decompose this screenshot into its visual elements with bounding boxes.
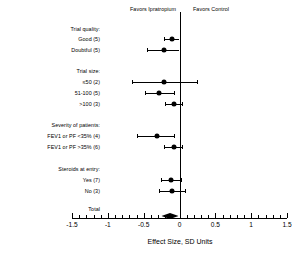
confidence-interval-cap [197,80,198,84]
x-axis-minor-tick [151,215,152,218]
x-axis-major-tick [72,213,73,218]
confidence-interval-cap [180,37,181,41]
x-axis-major-tick [180,213,181,218]
effect-estimate-marker [161,80,166,85]
x-axis-minor-tick [101,215,102,218]
x-axis-tick-label: 0 [178,221,182,228]
x-axis-major-tick [144,213,145,218]
x-axis-minor-tick [201,215,202,218]
confidence-interval-cap [181,178,182,182]
summary-diamond [162,205,179,211]
effect-estimate-marker [171,145,176,150]
confidence-interval-cap [182,145,183,149]
effect-estimate-marker [170,189,175,194]
effect-estimate-marker [168,178,173,183]
confidence-interval-cap [185,189,186,193]
effect-estimate-marker [157,91,162,96]
x-axis-minor-tick [122,215,123,218]
x-axis-minor-tick [237,215,238,218]
x-axis-minor-tick [79,215,80,218]
x-axis-minor-tick [194,215,195,218]
x-axis-minor-tick [244,215,245,218]
x-axis-tick-label: 1.5 [282,221,291,228]
x-axis-minor-tick [86,215,87,218]
x-axis-minor-tick [129,215,130,218]
x-axis-minor-tick [137,215,138,218]
confidence-interval-cap [132,80,133,84]
x-axis-major-tick [215,213,216,218]
confidence-interval-cap [145,91,146,95]
x-axis-major-tick [251,213,252,218]
effect-estimate-marker [161,48,166,53]
effect-estimate-marker [170,37,175,42]
confidence-interval-cap [174,134,175,138]
x-axis-minor-tick [273,215,274,218]
effect-estimate-marker [154,134,159,139]
x-axis-tick-label: -1.5 [66,221,77,228]
x-axis-tick-label: -0.5 [138,221,149,228]
effect-estimate-marker [171,102,176,107]
x-axis-minor-tick [280,215,281,218]
forest-plot: Favors Ipratropium Favors Control Trial … [0,0,299,254]
confidence-interval-cap [137,134,138,138]
x-axis-title: Effect Size, SD Units [148,238,213,245]
x-axis-minor-tick [94,215,95,218]
x-axis-minor-tick [158,215,159,218]
x-axis-minor-tick [187,215,188,218]
x-axis-tick-label: 0.5 [211,221,220,228]
x-axis-minor-tick [266,215,267,218]
confidence-interval-cap [164,37,165,41]
data-markers-layer [0,0,299,254]
confidence-interval-cap [147,48,148,52]
confidence-interval-cap [165,102,166,106]
x-axis-line [72,218,287,219]
confidence-interval-cap [182,102,183,106]
x-axis-minor-tick [230,215,231,218]
confidence-interval-cap [180,48,181,52]
x-axis-major-tick [287,213,288,218]
x-axis-tick-label: 1 [249,221,253,228]
x-axis-minor-tick [258,215,259,218]
x-axis-minor-tick [165,215,166,218]
confidence-interval-cap [161,178,162,182]
confidence-interval-cap [174,91,175,95]
x-axis-tick-label: -1 [105,221,111,228]
x-axis-minor-tick [115,215,116,218]
x-axis-minor-tick [208,215,209,218]
confidence-interval-cap [164,145,165,149]
x-axis-major-tick [108,213,109,218]
confidence-interval-cap [159,189,160,193]
x-axis-minor-tick [223,215,224,218]
x-axis-minor-tick [172,215,173,218]
